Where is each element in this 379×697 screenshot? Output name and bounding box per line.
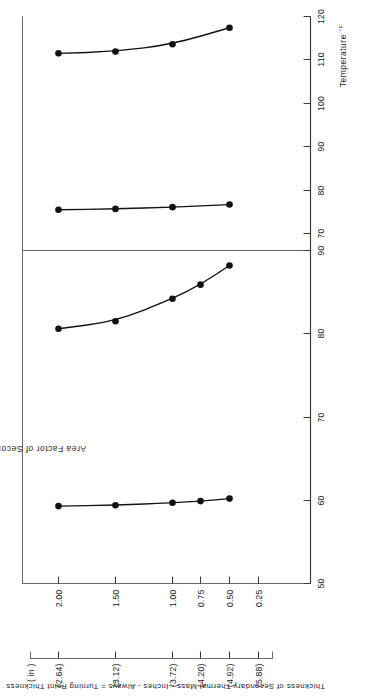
xtick-right-4: 110: [315, 52, 325, 66]
ytick-area-4: 0.50: [224, 589, 234, 607]
left-panel-xticks: [303, 250, 310, 583]
data-point-marker: [226, 495, 233, 502]
ytick-area-5: 0.25: [253, 589, 263, 607]
series-line-upper-temperature-curve-right: [58, 27, 229, 53]
xtick-right-0: 70: [315, 228, 325, 238]
data-point-marker: [55, 206, 62, 213]
data-point-marker: [55, 502, 62, 509]
data-point-marker: [112, 205, 119, 212]
ytick-area-2: 1.00: [167, 589, 177, 607]
data-point-marker: [55, 50, 62, 57]
series-line-lower-temperature-curve-right: [58, 204, 229, 209]
data-point-marker: [169, 295, 176, 302]
y2-axis-bracket: [30, 651, 272, 658]
plot-frame: [22, 16, 310, 583]
data-point-marker: [226, 201, 233, 208]
ytick-area-3: 0.75: [195, 589, 205, 607]
series-line-upper-temperature-curve-left: [58, 265, 229, 328]
data-point-marker: [112, 501, 119, 508]
xtick-right-2: 90: [315, 141, 325, 151]
ytick-area-1: 1.50: [110, 589, 120, 607]
chart-figure: 50 60 70 80 90 70 80 90 100 110 120 Temp…: [0, 0, 379, 697]
data-point-marker: [197, 497, 204, 504]
xtick-left-0: 50: [315, 578, 325, 588]
y-axis-ticks: [58, 576, 258, 583]
y2-axis-title: Thickness of Secondary Thermal Mass - In…: [5, 681, 324, 690]
rotated-page-stage: 50 60 70 80 90 70 80 90 100 110 120 Temp…: [0, 0, 379, 697]
data-point-marker: [55, 325, 62, 332]
xtick-left-2: 70: [315, 412, 325, 422]
ytick-area-0: 2.00: [53, 589, 63, 607]
chart-svg: 50 60 70 80 90 70 80 90 100 110 120 Temp…: [0, 0, 379, 697]
xtick-right-1: 80: [315, 185, 325, 195]
x-axis-title: Temperature°F: [336, 23, 347, 86]
data-point-marker: [226, 24, 233, 31]
xtick-left-1: 60: [315, 495, 325, 505]
y2-header: ( in ): [25, 663, 35, 681]
xtick-left-4: 90: [315, 245, 325, 255]
data-series-layer: [55, 24, 233, 509]
data-point-marker: [169, 499, 176, 506]
y-axis-title: Area Factor of Secondary Thermal Mass: [0, 443, 86, 453]
data-point-marker: [169, 40, 176, 47]
right-panel-xticks: [303, 16, 310, 233]
xtick-right-3: 100: [315, 96, 325, 111]
data-point-marker: [169, 203, 176, 210]
xtick-left-3: 80: [315, 328, 325, 338]
data-point-marker: [112, 48, 119, 55]
xtick-right-5: 120: [315, 9, 325, 24]
